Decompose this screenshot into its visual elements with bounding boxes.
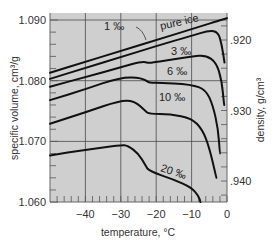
y-tick-label: 1.080 — [18, 75, 46, 87]
y2-tick-label: .920 — [230, 34, 251, 46]
y2-tick-label: .930 — [230, 105, 251, 117]
x-tick-label: −10 — [182, 208, 201, 220]
curve-label: 6 ‰ — [167, 65, 187, 77]
y2-tick-label: .940 — [230, 175, 251, 187]
x-tick-label: −30 — [111, 208, 130, 220]
y-axis-title: specific volume, cm³/g — [8, 56, 20, 160]
y2-axis-title: density, g/cm³ — [254, 77, 266, 142]
x-axis-title: temperature, °C — [101, 226, 176, 238]
x-tick-label: −40 — [76, 208, 95, 220]
x-tick-label: 0 — [224, 208, 230, 220]
curve-label: 3 ‰ — [171, 45, 191, 57]
y-tick-label: 1.060 — [18, 196, 46, 208]
chart: pure ice1 ‰3 ‰6 ‰10 ‰20 ‰ 1.0601.0701.08… — [0, 0, 272, 244]
y-tick-label: 1.090 — [18, 14, 46, 26]
plot-area — [50, 13, 227, 202]
curve-label: 10 ‰ — [159, 91, 185, 103]
x-axis-tick-labels: −40−30−20−100 — [76, 208, 230, 220]
curve-label: 1 ‰ — [104, 20, 124, 32]
y-axis-tick-labels: 1.0601.0701.0801.090 — [18, 14, 46, 208]
y-tick-label: 1.070 — [18, 135, 46, 147]
y2-axis-tick-labels: .920.930.940 — [230, 34, 251, 187]
x-tick-label: −20 — [147, 208, 166, 220]
